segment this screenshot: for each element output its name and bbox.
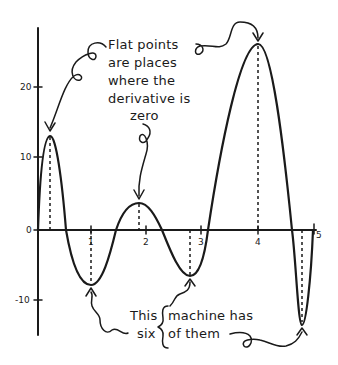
bottom-note-this: This <box>129 308 157 323</box>
top-note-line-4: derivative is <box>108 91 190 106</box>
arrow-to-peak-3-icon <box>139 124 150 196</box>
y-tick-label-minus10: -10 <box>15 295 30 305</box>
bottom-note-machine-has: machine has <box>168 308 253 323</box>
top-note-line-3: where the <box>108 73 175 88</box>
x-tick-label-3: 3 <box>198 237 204 247</box>
arrow-to-trough-2-icon <box>170 282 190 306</box>
y-tick-label-0: 0 <box>26 225 32 235</box>
arrow-to-trough-6-icon <box>230 332 302 347</box>
bottom-note-six: six <box>137 326 156 341</box>
top-note-line-2: are places <box>108 55 177 70</box>
arrow-to-peak-5-icon <box>196 22 259 54</box>
bottom-annotation: This six machine has of them <box>129 306 253 348</box>
y-tick-label-10: 10 <box>20 152 32 162</box>
top-note-line-5: zero <box>130 108 159 123</box>
x-tick-label-4: 4 <box>255 237 261 247</box>
arrow-to-trough-1-icon <box>91 292 128 334</box>
flat-point-droplines <box>50 46 302 322</box>
chart-canvas: 20 10 0 -10 1 2 3 4 5 Flat points are pl… <box>0 0 338 365</box>
x-tick-label-5: 5 <box>316 230 322 240</box>
brace-icon <box>158 306 168 348</box>
arrow-to-peak-1-icon <box>50 43 106 128</box>
function-curve <box>38 44 313 325</box>
y-tick-label-20: 20 <box>20 82 32 92</box>
x-tick-label-2: 2 <box>143 237 149 247</box>
top-annotation: Flat points are places where the derivat… <box>108 37 190 123</box>
bottom-note-of-them: of them <box>168 326 220 341</box>
top-note-line-1: Flat points <box>108 37 178 52</box>
